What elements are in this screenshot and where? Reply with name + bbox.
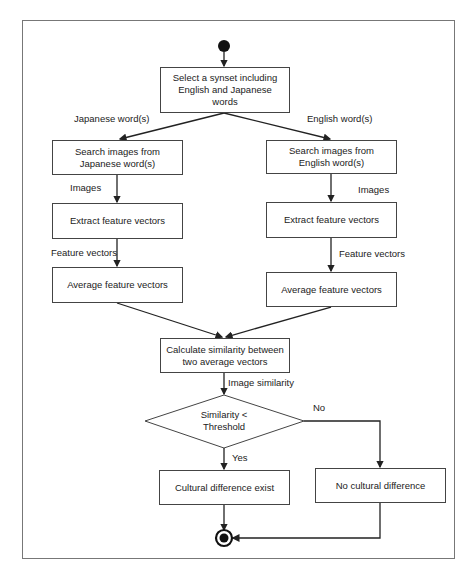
node-no-cultural-difference: No cultural difference xyxy=(315,468,446,503)
node-en-average: Average feature vectors xyxy=(266,272,397,307)
node-en-search: Search images from English word(s) xyxy=(266,140,397,174)
node-jp-average: Average feature vectors xyxy=(52,267,183,303)
edge-label-en-images: Images xyxy=(358,184,389,195)
node-decision-text: Similarity < Threshold xyxy=(184,409,264,433)
node-calculate-similarity: Calculate similarity between two average… xyxy=(160,338,290,373)
edge-label-en-feature-vectors: Feature vectors xyxy=(339,248,405,259)
node-jp-search: Search images from Japanese word(s) xyxy=(52,140,183,175)
node-en-extract: Extract feature vectors xyxy=(266,202,397,238)
edge-label-image-similarity: Image similarity xyxy=(228,377,294,388)
edge-label-no: No xyxy=(313,402,325,413)
edge-label-jp-feature-vectors: Feature vectors xyxy=(51,247,117,258)
edge-label-yes: Yes xyxy=(232,452,248,463)
edge-label-english-words: English word(s) xyxy=(307,113,372,124)
node-select-synset: Select a synset including English and Ja… xyxy=(160,67,290,113)
node-cultural-difference-exist: Cultural difference exist xyxy=(159,470,290,505)
end-node-icon xyxy=(216,530,232,546)
edge-label-jp-images: Images xyxy=(70,182,101,193)
edge-label-japanese-words: Japanese word(s) xyxy=(74,113,150,124)
start-node-icon xyxy=(218,40,230,52)
node-jp-extract: Extract feature vectors xyxy=(52,203,183,239)
